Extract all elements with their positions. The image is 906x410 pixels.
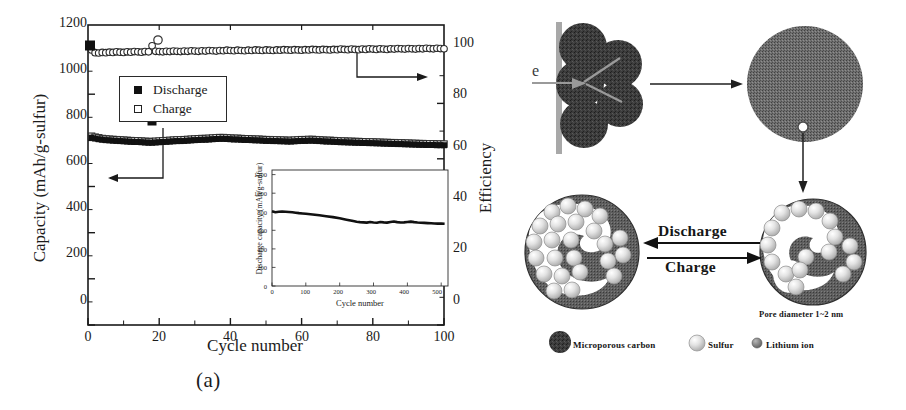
panel-b-mechanism-schematic: e Discharge Charge Pore diameter 1~2 nm … [510, 0, 906, 410]
discharge-sample-marker-first [86, 41, 95, 50]
discharge-label: Discharge [658, 222, 727, 240]
charge-label: Charge [665, 258, 716, 276]
pore-discharged-state [525, 195, 639, 309]
legend-sulfur-icon [689, 335, 705, 351]
legend-label-microporous-carbon: Microporous carbon [573, 340, 656, 350]
filled-square-icon [134, 86, 142, 94]
y-left-major-ticks [88, 48, 95, 325]
pore-marker [798, 122, 808, 132]
data-marker [145, 49, 152, 56]
arrow-aggregate-to-sphere [650, 80, 743, 89]
inset-plot: Discharge capacity (mAh/g-sulfur) Cycle … [240, 158, 450, 313]
data-marker [441, 46, 448, 53]
legend-row-charge: Charge [120, 99, 226, 118]
figure-root: Capacity (mAh/g-sulfur) Efficiency Cycle… [0, 0, 906, 410]
efficiency-axis-pointer-arrow [357, 52, 428, 81]
legend-carbon-icon [549, 331, 571, 353]
legend-label-sulfur: Sulfur [708, 340, 734, 350]
arrow-sphere-to-detail [799, 133, 808, 193]
legend-row-discharge: Discharge [120, 80, 226, 99]
inset-frame [272, 170, 448, 286]
legend-label-lithium-ion: Lithium ion [766, 340, 814, 350]
legend-label-charge: Charge [153, 101, 192, 117]
electron-label: e [532, 62, 539, 80]
pore-diameter-label: Pore diameter 1~2 nm [759, 309, 843, 319]
panel-a-caption: (a) [196, 368, 221, 393]
efficiency-outlier-marker [154, 36, 162, 44]
legend-lithium-icon [752, 338, 762, 348]
pore-charged-state [760, 199, 866, 305]
panel-a-cycling-performance: Capacity (mAh/g-sulfur) Efficiency Cycle… [0, 0, 510, 410]
legend-label-discharge: Discharge [153, 82, 207, 98]
series-efficiency-open-circles [88, 42, 447, 56]
carbon-particle-aggregate [556, 23, 643, 148]
open-square-icon [134, 105, 142, 113]
inset-plot-canvas [240, 158, 450, 313]
data-marker [441, 142, 447, 148]
plot-legend: Discharge Charge [119, 76, 227, 122]
